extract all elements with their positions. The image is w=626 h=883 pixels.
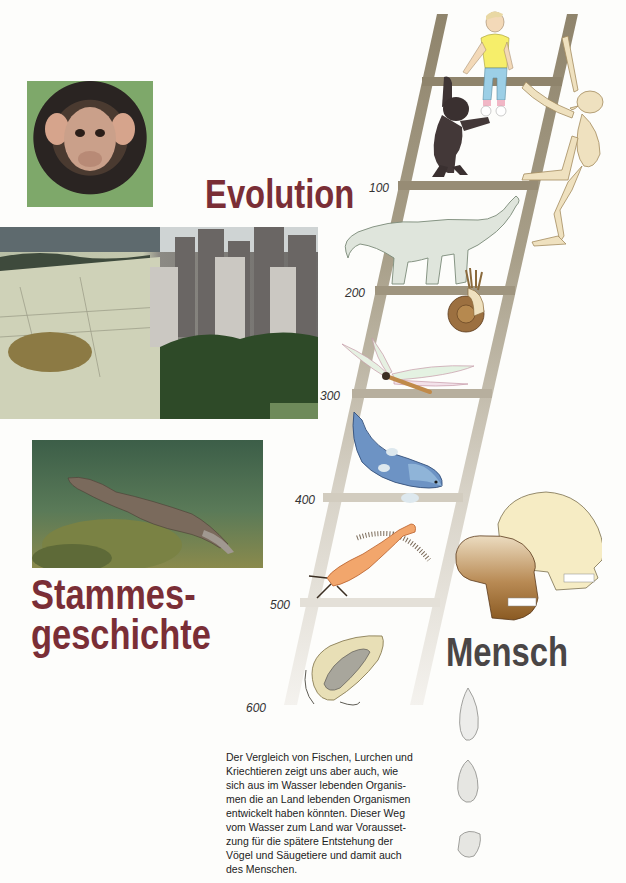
title-evolution: Evolution bbox=[205, 174, 354, 214]
caption-paragraph: Der Vergleich von Fischen, Lurchen und K… bbox=[226, 750, 436, 876]
rough-hand-axe-icon bbox=[458, 760, 478, 802]
ape-climbing-illustration bbox=[420, 75, 500, 180]
desert-city-photo bbox=[0, 227, 318, 419]
scale-label-500: 500 bbox=[270, 598, 290, 612]
early-skull bbox=[456, 536, 538, 620]
ammonite-illustration bbox=[444, 266, 494, 336]
dragonfly-illustration bbox=[340, 336, 480, 398]
scale-label-300: 300 bbox=[320, 389, 340, 403]
title-stammes-line2: geschichte bbox=[31, 614, 211, 656]
stone-tools-illustration bbox=[450, 684, 490, 864]
chimpanzee-face-icon bbox=[27, 81, 153, 207]
lobe-finned-fish-illustration bbox=[348, 410, 448, 508]
caption-line: Vögel und Säugetiere und damit auch bbox=[226, 848, 436, 862]
skeleton-climbing-illustration bbox=[512, 30, 612, 250]
caption-line: des Menschen. bbox=[226, 862, 436, 876]
scale-label-600: 600 bbox=[246, 701, 266, 715]
scale-label-400: 400 bbox=[295, 493, 315, 507]
trilobite-illustration bbox=[300, 630, 390, 710]
chimpanzee-photo bbox=[27, 81, 153, 207]
caption-line: men die an Land lebenden Organismen bbox=[226, 792, 436, 806]
caption-line: zung für die spätere Entstehung der bbox=[226, 834, 436, 848]
caption-line: Kriechtieren zeigt uns aber auch, wie bbox=[226, 764, 436, 778]
caption-line: vom Wasser zum Land war Vorausset- bbox=[226, 820, 436, 834]
caption-line: Der Vergleich von Fischen, Lurchen und bbox=[226, 750, 436, 764]
leaf-hand-axe-icon bbox=[460, 688, 479, 740]
platypus-photo bbox=[32, 440, 263, 568]
chopper-tool-icon bbox=[458, 831, 480, 857]
title-stammes-line1: Stammes- bbox=[31, 574, 196, 616]
sea-scorpion-illustration bbox=[303, 520, 438, 605]
caption-line: sich aus im Wasser lebenden Organis- bbox=[226, 778, 436, 792]
hominid-skulls-illustration bbox=[452, 488, 602, 623]
title-mensch: Mensch bbox=[446, 632, 568, 672]
caption-line: entwickelt haben könnten. Dieser Weg bbox=[226, 806, 436, 820]
sauropod-dinosaur-illustration bbox=[338, 192, 523, 292]
